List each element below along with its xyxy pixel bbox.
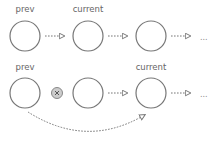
node-circle [136, 78, 166, 108]
prev-label: prev [16, 4, 35, 14]
bypass-arrow [28, 112, 141, 131]
node-circle [10, 21, 40, 51]
node-circle [73, 21, 103, 51]
linked-list-diagram: prev current ... prev current ... [0, 0, 217, 141]
ellipsis: ... [200, 33, 208, 42]
x-circle-icon [52, 88, 63, 99]
current-label: current [73, 4, 104, 14]
prev-label: prev [16, 62, 35, 72]
ellipsis: ... [200, 90, 208, 99]
node-circle [136, 21, 166, 51]
node-circle [10, 78, 40, 108]
node-circle [73, 78, 103, 108]
current-label: current [136, 62, 167, 72]
row-before: prev current ... [10, 4, 208, 51]
row-after: prev current ... [10, 62, 208, 131]
